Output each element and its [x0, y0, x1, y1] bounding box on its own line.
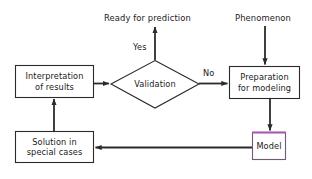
node-preparation-for-modeling [230, 67, 300, 99]
node-solution-in-special-cases [16, 132, 94, 163]
node-model [253, 133, 286, 160]
edge-label-yes: Yes [133, 42, 147, 52]
flowchart-graphics [0, 0, 312, 179]
label-phenomenon: Phenomenon [235, 13, 291, 24]
flowchart-canvas: Interpretation of results Validation Pre… [0, 0, 312, 179]
node-interpretation-of-results [16, 66, 94, 98]
label-ready-for-prediction: Ready for prediction [104, 13, 191, 24]
edge-label-no: No [203, 68, 214, 78]
node-validation-diamond [111, 61, 199, 109]
